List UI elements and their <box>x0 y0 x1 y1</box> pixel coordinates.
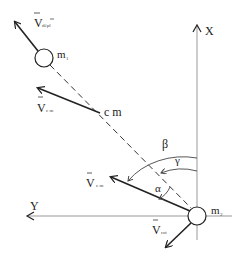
v-depl-label: V dépl m <box>34 13 54 30</box>
m2-label: m 2 <box>211 204 223 217</box>
svg-text:rot: rot <box>161 230 167 235</box>
v-cm-upper-label: V c m <box>37 97 53 115</box>
v-rot-arrow-icon <box>166 223 191 247</box>
svg-text:V: V <box>152 223 161 237</box>
svg-text:m: m <box>211 204 220 216</box>
angle-gamma-label: γ <box>174 154 180 166</box>
v-cm-lower-arrow-icon <box>111 177 190 211</box>
v-cm-lower-label: V c m <box>86 173 103 190</box>
angle-alpha-label: α <box>155 182 161 194</box>
svg-text:c m: c m <box>46 108 53 113</box>
svg-text:1: 1 <box>66 56 69 61</box>
mass-m2 <box>188 207 206 225</box>
diagram-canvas: X Y V dépl m m 1 V c m c m V c m β γ <box>0 0 245 262</box>
angle-beta-label: β <box>162 137 168 151</box>
y-axis-label: Y <box>30 199 39 213</box>
svg-text:V: V <box>86 176 95 190</box>
x-axis-label: X <box>205 24 214 38</box>
svg-text:m: m <box>50 16 54 21</box>
m1-m2-dashed-line <box>50 65 191 208</box>
svg-text:m: m <box>57 48 66 60</box>
mass-m1 <box>35 49 53 67</box>
center-of-mass-label: c m <box>104 105 122 119</box>
svg-text:c m: c m <box>96 183 103 188</box>
v-rot-label: V rot <box>152 220 167 237</box>
m1-label: m 1 <box>57 48 69 61</box>
gamma-arc-icon <box>161 169 197 173</box>
svg-text:dépl: dépl <box>42 23 51 28</box>
svg-text:V: V <box>37 101 46 115</box>
